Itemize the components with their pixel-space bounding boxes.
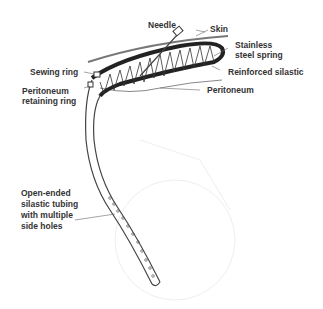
label-tubing-2: silastic tubing [21, 199, 78, 209]
label-needle: Needle [148, 20, 176, 30]
label-stainless-2: steel spring [235, 50, 283, 60]
label-tubing-4: side holes [21, 221, 63, 231]
label-reinforced-silastic: Reinforced silastic [228, 67, 304, 77]
label-peritoneum: Peritoneum [207, 85, 254, 95]
label-stainless-1: Stainless [235, 40, 272, 50]
label-skin: Skin [210, 24, 228, 34]
label-peritoneum-retaining-2: retaining ring [22, 96, 76, 106]
label-tubing-1: Open-ended [21, 188, 71, 198]
tubing-right [94, 96, 160, 282]
label-tubing-3: with multiple [21, 210, 73, 220]
label-peritoneum-retaining-1: Peritoneum [22, 86, 69, 96]
catheter-illustration [0, 0, 323, 309]
catheter-diagram: Needle Skin Stainless steel spring Sewin… [0, 0, 323, 309]
label-sewing-ring: Sewing ring [30, 67, 78, 77]
